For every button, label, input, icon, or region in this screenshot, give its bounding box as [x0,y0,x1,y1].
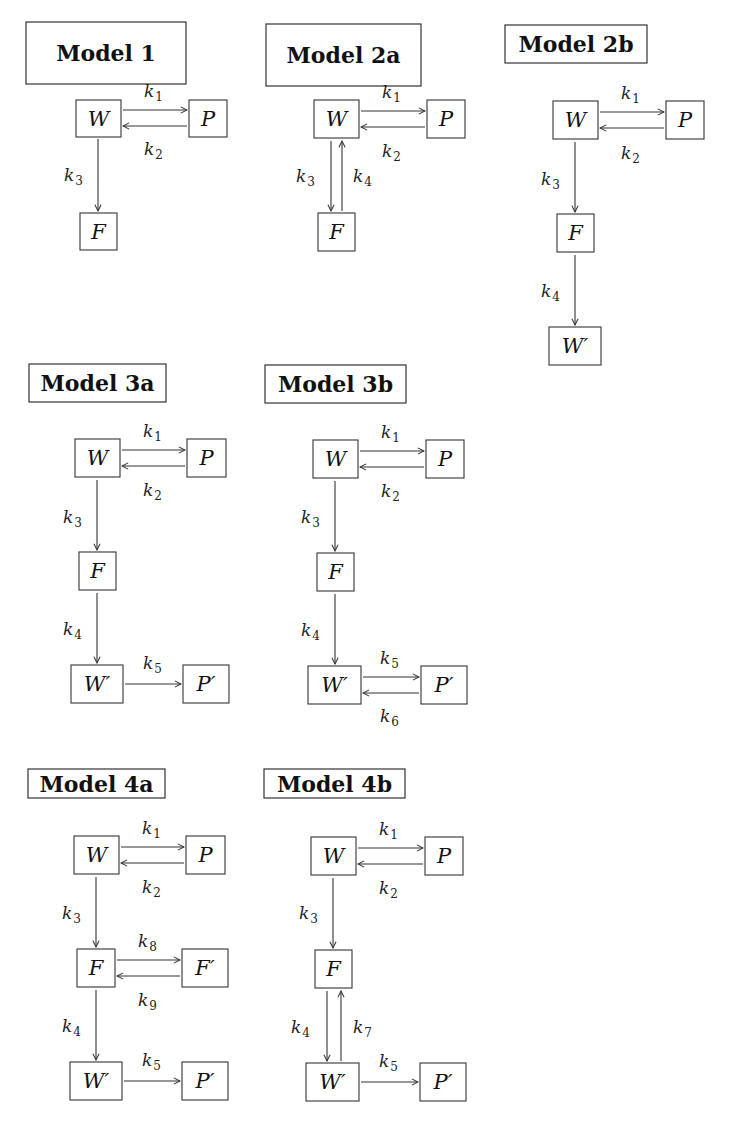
rate-label-k3: k3 [62,903,81,926]
rate-label-k1: k1 [143,421,162,444]
model-title: Model 2a [266,24,421,86]
node-p: P [426,440,464,478]
edge-p-prime-to-w-prime: k6 [363,693,419,729]
rate-label-k3: k3 [63,507,82,530]
rate-label-k3: k3 [541,169,560,192]
node-label: F [90,220,107,244]
model-3b: Model 3bk1k2k3k4k5k6WPFW′P′ [265,365,467,729]
node-label: W [86,843,110,867]
node-f: F [80,213,117,250]
node-p: P [425,837,463,875]
rate-label-k2: k2 [381,481,400,504]
node-label: W′ [319,1070,346,1094]
node-label: F [567,221,584,245]
node-label: P′ [434,673,454,697]
node-label: P [197,843,213,867]
node-p: P [427,100,465,138]
model-title: Model 1 [26,22,186,84]
edge-w-to-p: k1 [360,422,424,451]
rate-label-k2: k2 [142,877,161,900]
model-title: Model 3b [265,365,406,403]
node-p-prime: P′ [182,1062,228,1100]
rate-label-k5: k5 [379,1051,398,1074]
model-title-text: Model 2a [287,42,401,68]
node-label: F [89,559,106,583]
rate-label-k1: k1 [379,819,398,842]
node-label: W [326,107,350,131]
node-label: W′ [83,1069,110,1093]
node-f: F [79,552,116,590]
node-w: W [311,837,356,875]
edge-w-to-p: k1 [122,421,185,450]
edge-w-prime-to-p-prime: k5 [124,1050,180,1081]
rate-label-k6: k6 [380,706,399,729]
rate-label-k2: k2 [143,480,162,503]
model-2a: Model 2ak1k2k3k4WPF [266,24,465,251]
edge-p-to-w: k2 [361,127,425,164]
rate-label-k4: k4 [353,166,372,189]
node-label: W [323,844,347,868]
node-label: F [325,957,342,981]
edge-p-to-w: k2 [600,128,664,166]
node-label: F [327,560,344,584]
model-title-text: Model 1 [56,40,156,66]
node-f-prime: F′ [182,949,228,987]
rate-label-k4: k4 [301,620,320,643]
edge-w-to-f: k3 [62,877,96,947]
node-label: W [565,108,589,132]
node-label: P [437,447,453,471]
edge-w-prime-to-p-prime: k5 [125,653,181,684]
node-label: W [325,447,349,471]
rate-label-k4: k4 [62,1016,81,1039]
edge-w-prime-to-p-prime: k5 [363,648,419,677]
model-title: Model 2b [505,25,647,63]
node-label: W [87,446,111,470]
node-w: W [74,836,119,874]
node-w-prime: W′ [308,666,361,704]
rate-label-k1: k1 [381,422,400,445]
node-label: W′ [84,672,111,696]
node-w: W [314,100,359,138]
node-f: F [315,950,352,988]
edge-f-to-w-prime: k4 [62,990,96,1060]
edge-w-to-f: k3 [541,142,575,212]
rate-label-k3: k3 [296,166,315,189]
rate-label-k3: k3 [64,165,83,188]
model-title-text: Model 2b [518,31,633,57]
edge-w-to-p: k1 [358,819,423,848]
edge-f-to-w-prime: k4 [541,255,575,325]
edge-f-to-w-prime: k4 [291,991,327,1061]
edge-w-prime-to-f: k7 [341,991,372,1061]
model-2b: Model 2bk1k2k3k4WPFW′ [505,25,704,365]
node-p-prime: P′ [420,1063,466,1101]
edge-f-to-w: k4 [342,141,372,211]
node-label: P [438,107,454,131]
node-label: P′ [433,1070,453,1094]
node-w: W [553,101,598,139]
model-title: Model 4b [264,769,405,798]
rate-label-k3: k3 [299,903,318,926]
node-p: P [189,100,227,137]
model-title-text: Model 4b [277,771,392,797]
model-4b: Model 4bk1k2k3k4k7k5WPFW′P′ [264,769,466,1101]
node-w-prime: W′ [70,1062,122,1100]
node-p-prime: P′ [421,666,467,704]
node-w-prime: W′ [549,327,601,365]
rate-label-k9: k9 [138,990,157,1013]
edge-p-to-w: k2 [122,466,185,503]
node-label: P [198,446,214,470]
node-w: W [76,100,121,137]
node-w: W [75,439,120,477]
node-p: P [187,439,226,477]
edge-p-to-w: k2 [123,126,187,162]
rate-label-k7: k7 [353,1017,372,1040]
model-title: Model 3a [29,364,166,402]
edge-f-to-f-prime: k8 [117,931,180,960]
rate-label-k2: k2 [144,139,163,162]
node-label: P [436,844,452,868]
model-3a: Model 3ak1k2k3k4k5WPFW′P′ [29,364,229,703]
edge-w-to-p: k1 [121,818,184,847]
node-label: P [200,107,216,131]
models-layer: Model 1k1k2k3WPFModel 2ak1k2k3k4WPFModel… [26,22,704,1101]
rate-label-k5: k5 [380,648,399,671]
